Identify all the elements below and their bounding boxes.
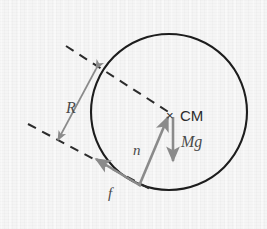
radius-dimension-label: R: [65, 99, 76, 116]
physics-diagram-figure: × CM n Mg f R: [0, 0, 267, 229]
friction-force-vector: [96, 159, 141, 186]
friction-force-label: f: [108, 185, 114, 201]
diagram-canvas: × CM n Mg f R: [0, 0, 267, 229]
center-of-mass-marker-icon: ×: [166, 108, 174, 123]
normal-force-label: n: [133, 142, 141, 158]
center-of-mass-label: CM: [180, 107, 203, 124]
weight-force-label: Mg: [180, 133, 202, 151]
normal-force-vector: [139, 117, 168, 186]
radius-construction-line: [66, 46, 170, 113]
radius-dimension-arrow: [58, 69, 96, 140]
